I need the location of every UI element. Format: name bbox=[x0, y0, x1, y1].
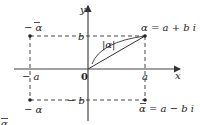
partial-conj-label: α bbox=[1, 118, 8, 125]
x-axis-label: x bbox=[175, 70, 181, 81]
complex-plane-diagram: y x 0 b − b a − a α = a + b i α = a − b … bbox=[0, 0, 200, 125]
alpha-vector bbox=[88, 36, 145, 69]
y-axis-label: y bbox=[79, 4, 86, 15]
tick-neg-b: − b bbox=[67, 95, 85, 106]
point-alpha-conj bbox=[143, 98, 147, 102]
point-neg-alpha bbox=[28, 98, 32, 102]
label-neg-alpha-conj-group: − α bbox=[24, 22, 43, 33]
tick-b: b bbox=[78, 31, 84, 42]
tick-a: a bbox=[142, 71, 148, 82]
point-neg-alpha-conj bbox=[28, 34, 32, 38]
label-alpha-conj-group: α = a − b i bbox=[139, 103, 194, 114]
modulus-label: |α| bbox=[102, 39, 116, 51]
partial-label-group: α bbox=[1, 118, 8, 125]
point-alpha bbox=[143, 34, 147, 38]
tick-neg-a: − a bbox=[22, 71, 40, 82]
origin-label: 0 bbox=[81, 71, 88, 82]
label-neg-alpha-conj: − α bbox=[24, 22, 43, 33]
label-neg-alpha: − α bbox=[24, 104, 43, 115]
label-alpha: α = a + b i bbox=[141, 22, 196, 33]
label-alpha-conj: α = a − b i bbox=[139, 103, 194, 114]
